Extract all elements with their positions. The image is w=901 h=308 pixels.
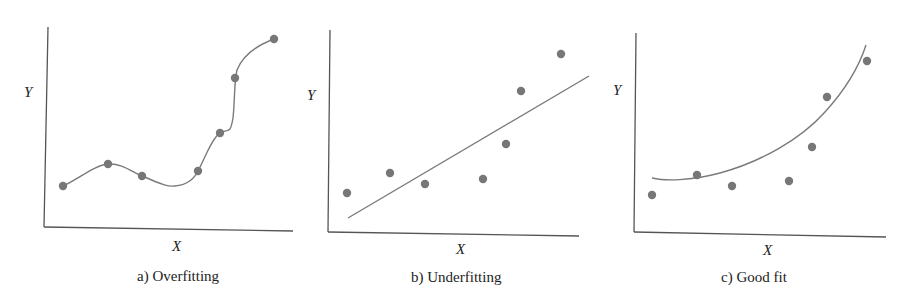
good-fit-curve (652, 45, 866, 180)
data-point (343, 189, 351, 197)
data-point (808, 143, 816, 151)
y-axis-label: Y (613, 82, 623, 98)
fitting-diagram: Y X a) Overfitting Y X b) Underfitting Y… (0, 0, 901, 308)
panel-good-fit: Y X c) Good fit (613, 33, 886, 286)
data-point (728, 182, 736, 190)
y-axis (328, 30, 330, 232)
data-point (863, 57, 871, 65)
data-point (59, 182, 67, 190)
panel-caption: c) Good fit (721, 269, 788, 286)
data-point (270, 35, 278, 43)
data-point (138, 172, 146, 180)
y-axis-label: Y (24, 84, 34, 100)
x-axis-label: X (455, 241, 466, 257)
data-point (517, 87, 525, 95)
data-point (231, 74, 239, 82)
data-point (823, 93, 831, 101)
x-axis (634, 232, 886, 237)
panel-caption: a) Overfitting (137, 268, 220, 285)
linear-fit-line (348, 76, 589, 218)
data-point (194, 167, 202, 175)
overfit-curve (63, 39, 274, 186)
y-axis (634, 33, 636, 232)
data-point (693, 171, 701, 179)
x-axis-label: X (762, 242, 773, 258)
data-point (785, 177, 793, 185)
y-axis-label: Y (307, 87, 317, 103)
data-point (421, 180, 429, 188)
y-axis (44, 27, 48, 227)
panel-caption: b) Underfitting (411, 269, 502, 286)
x-axis-label: X (171, 238, 182, 254)
x-axis (328, 232, 579, 236)
data-point (557, 50, 565, 58)
data-point (502, 140, 510, 148)
data-point (216, 129, 224, 137)
panel-underfitting: Y X b) Underfitting (307, 30, 589, 286)
data-point (479, 175, 487, 183)
panel-overfitting: Y X a) Overfitting (24, 27, 293, 285)
data-point (386, 169, 394, 177)
data-point (648, 191, 656, 199)
data-point (104, 160, 112, 168)
x-axis (44, 227, 293, 231)
